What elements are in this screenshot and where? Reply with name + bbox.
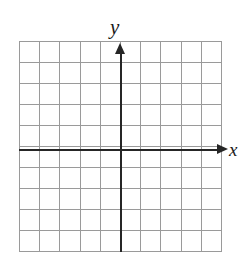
x-axis-label: x — [229, 140, 237, 159]
y-axis-label: y — [110, 17, 119, 38]
grid-line-horizontal — [19, 41, 222, 42]
arrow-up-icon — [115, 43, 125, 54]
x-axis-line — [19, 149, 217, 151]
arrow-right-icon — [217, 144, 228, 154]
coordinate-grid-figure: x y — [0, 0, 244, 264]
y-axis-line — [120, 54, 122, 252]
